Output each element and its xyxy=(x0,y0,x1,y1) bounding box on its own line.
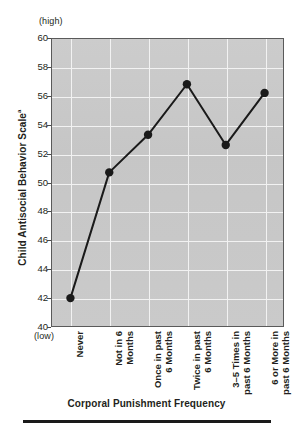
x-axis-category-label: 3–5 Times in past 6 Months xyxy=(231,331,252,423)
y-axis-tick-label: 44 xyxy=(2,264,48,274)
x-axis-category-label: Twice in past 6 Months xyxy=(192,331,213,423)
gridline-horizontal xyxy=(52,299,283,300)
x-axis-category-label: 6 or More in past 6 Months xyxy=(270,331,291,423)
gridline-vertical xyxy=(227,39,228,326)
y-axis-tick-labels: 6058565452504846444240 xyxy=(0,0,48,428)
y-axis-tick-label: 50 xyxy=(2,178,48,188)
gridline-vertical xyxy=(149,39,150,326)
x-axis-category-label: Never xyxy=(75,331,86,423)
gridline-horizontal xyxy=(52,241,283,242)
gridline-horizontal xyxy=(52,97,283,98)
x-axis-title: Corporal Punishment Frequency xyxy=(0,398,293,409)
gridline-horizontal xyxy=(52,155,283,156)
gridline-horizontal xyxy=(52,212,283,213)
x-axis-category-label: Once in past 6 Months xyxy=(153,331,174,423)
bottom-rule xyxy=(23,420,271,423)
gridline-horizontal xyxy=(52,270,283,271)
plot-background xyxy=(52,39,283,326)
y-axis-tick-mark xyxy=(47,327,51,328)
gridline-horizontal xyxy=(52,126,283,127)
y-axis-tick-label: 58 xyxy=(2,62,48,72)
gridline-vertical xyxy=(110,39,111,326)
gridline-horizontal xyxy=(52,68,283,69)
chart-figure: (high) (low) Child Antisocial Behavior S… xyxy=(0,0,293,428)
gridline-horizontal xyxy=(52,184,283,185)
y-axis-tick-label: 48 xyxy=(2,206,48,216)
plot-area xyxy=(51,38,284,327)
gridline-vertical xyxy=(71,39,72,326)
x-axis-category-label: Not in 6 Months xyxy=(114,331,135,423)
y-axis-tick-label: 52 xyxy=(2,149,48,159)
gridline-vertical xyxy=(188,39,189,326)
y-axis-tick-label: 54 xyxy=(2,120,48,130)
gridline-vertical xyxy=(266,39,267,326)
y-axis-tick-label: 56 xyxy=(2,91,48,101)
y-axis-tick-label: 46 xyxy=(2,235,48,245)
y-axis-tick-label: 42 xyxy=(2,293,48,303)
y-axis-tick-label: 60 xyxy=(2,33,48,43)
y-axis-tick-label: 40 xyxy=(2,322,48,332)
